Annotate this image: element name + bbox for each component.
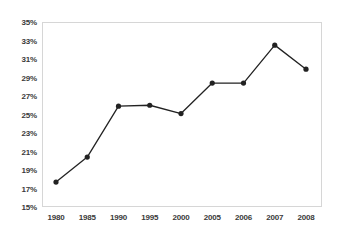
data-point <box>147 103 152 108</box>
data-point <box>272 43 277 48</box>
data-point <box>178 111 183 116</box>
data-point <box>85 154 90 159</box>
line-chart: 35%33%31%29%27%25%23%21%19%17%15% 198019… <box>0 0 337 232</box>
data-point <box>116 104 121 109</box>
series-markers <box>53 43 308 185</box>
data-point <box>241 80 246 85</box>
data-series-layer <box>0 0 337 232</box>
data-point <box>303 67 308 72</box>
data-point <box>53 179 58 184</box>
data-point <box>210 80 215 85</box>
